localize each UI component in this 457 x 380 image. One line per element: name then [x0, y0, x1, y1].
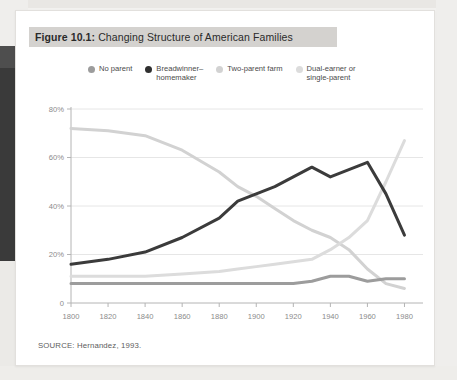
- chart-legend: No parent Breadwinner– homemaker Two-par…: [88, 64, 428, 90]
- x-tick-label: 1900: [248, 312, 265, 321]
- line-chart-svg: 020%40%60%80%180018201840186018801900192…: [16, 99, 436, 329]
- legend-item-two-parent-farm[interactable]: Two-parent farm: [216, 64, 282, 73]
- legend-label-no-parent: No parent: [99, 64, 132, 73]
- figure-source: SOURCE: Hernandez, 1993.: [38, 341, 141, 350]
- screenshot-root: Figure 10.1: Changing Structure of Ameri…: [0, 0, 457, 380]
- legend-label-two-parent-farm: Two-parent farm: [227, 64, 282, 73]
- legend-dot-icon-breadwinner: [145, 66, 152, 73]
- x-tick-label: 1840: [137, 312, 154, 321]
- legend-item-breadwinner[interactable]: Breadwinner– homemaker: [145, 64, 203, 83]
- chart-plot-area: 020%40%60%80%180018201840186018801900192…: [16, 99, 436, 329]
- x-tick-label: 1940: [322, 312, 339, 321]
- figure-label: Figure 10.1:: [35, 31, 95, 43]
- x-tick-label: 1960: [359, 312, 376, 321]
- series-line-breadwinner-homemaker: [71, 162, 404, 264]
- y-tick-label: 40%: [49, 202, 64, 211]
- legend-item-dual-earner[interactable]: Dual-earner or single-parent: [296, 64, 356, 83]
- y-tick-label: 0: [60, 299, 64, 308]
- legend-dot-icon-dual-earner: [296, 66, 303, 73]
- y-tick-label: 60%: [49, 153, 64, 162]
- legend-label-breadwinner: Breadwinner– homemaker: [156, 64, 203, 83]
- figure-title-bar: Figure 10.1: Changing Structure of Ameri…: [29, 27, 337, 47]
- x-tick-label: 1860: [174, 312, 191, 321]
- y-tick-label: 80%: [49, 105, 64, 114]
- page-backdrop-bottom: [0, 366, 457, 380]
- series-line-two-parent-farm: [71, 128, 404, 288]
- x-tick-label: 1880: [211, 312, 228, 321]
- legend-dot-icon-no-parent: [88, 66, 95, 73]
- figure-title: Figure 10.1: Changing Structure of Ameri…: [35, 31, 293, 43]
- x-tick-label: 1980: [396, 312, 413, 321]
- legend-label-dual-earner: Dual-earner or single-parent: [307, 64, 356, 83]
- x-tick-label: 1920: [285, 312, 302, 321]
- x-tick-label: 1800: [63, 312, 80, 321]
- legend-dot-icon-two-parent-farm: [216, 66, 223, 73]
- page-backdrop-top: [0, 0, 457, 8]
- page-backdrop-right: [436, 0, 457, 380]
- y-tick-label: 20%: [49, 250, 64, 259]
- figure-title-text: Changing Structure of American Families: [98, 31, 293, 43]
- legend-item-no-parent[interactable]: No parent: [88, 64, 132, 73]
- figure-card: Figure 10.1: Changing Structure of Ameri…: [15, 10, 435, 366]
- x-tick-label: 1820: [100, 312, 117, 321]
